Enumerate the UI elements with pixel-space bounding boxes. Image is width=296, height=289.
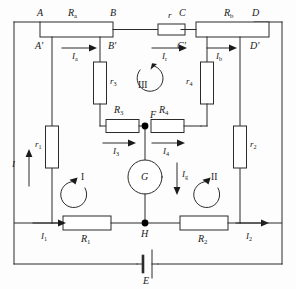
resistor-Rb-body <box>196 22 269 37</box>
battery-label: E <box>143 276 149 286</box>
resistor-label-r4: r4 <box>186 77 193 87</box>
resistor-Ra-body <box>40 22 113 37</box>
current-arrow-Ia <box>62 45 97 52</box>
node-label-A-prime: A' <box>35 41 43 51</box>
resistor-r2-subscript: 2 <box>254 144 257 150</box>
current-label-Ia: Ia <box>72 52 78 62</box>
node-label-C: C <box>179 8 186 18</box>
resistor-R1-subscript: 1 <box>87 238 90 245</box>
current-arrow-I <box>26 149 33 186</box>
resistor-label-Ra: Ra <box>68 8 77 19</box>
resistor-r-symbol: r <box>168 10 172 20</box>
resistor-Ra-subscript: a <box>74 12 77 19</box>
resistor-Rb-subscript: b <box>230 12 233 19</box>
circuit-diagram: A A' B B' C C' D D' F H Ra Rb r R3 R4 R1… <box>0 0 296 289</box>
resistor-R3-subscript: 3 <box>120 109 123 116</box>
resistor-label-r3: r3 <box>110 77 117 87</box>
current-I4-subscript: 4 <box>166 151 169 157</box>
node-label-D: D <box>252 8 259 18</box>
node-label-A: A <box>37 8 43 18</box>
galvanometer-label: G <box>141 172 148 182</box>
resistor-r3-subscript: 3 <box>114 81 117 87</box>
current-arrow-Ig <box>174 163 181 195</box>
resistor-label-R2: R2 <box>198 234 208 245</box>
current-I2-subscript: 2 <box>249 236 252 242</box>
resistor-R2-subscript: 2 <box>204 238 207 245</box>
current-Ia-subscript: a <box>75 56 78 62</box>
current-arrow-I3 <box>103 140 136 147</box>
current-arrow-I4 <box>152 140 185 147</box>
node-dot-F <box>142 123 149 130</box>
resistor-r4-body <box>201 62 214 104</box>
current-label-I: I <box>12 160 15 169</box>
node-label-H: H <box>141 229 148 239</box>
resistor-label-R3: R3 <box>114 105 124 116</box>
current-Ir-subscript: r <box>165 56 167 62</box>
current-I1-subscript: 1 <box>44 236 47 242</box>
resistor-R2-body <box>180 216 228 230</box>
node-label-F: F <box>150 110 156 120</box>
resistor-label-r2: r2 <box>250 140 257 150</box>
node-dot-H <box>142 220 149 227</box>
resistor-R4-body <box>151 120 184 133</box>
resistor-label-R1: R1 <box>81 234 91 245</box>
current-label-Ig: Ig <box>182 170 188 180</box>
resistor-r4-subscript: 4 <box>190 81 193 87</box>
current-I-symbol: I <box>12 159 15 169</box>
node-label-C-prime: C' <box>177 41 186 51</box>
current-arrow-Ib <box>207 45 237 52</box>
loop-label-II: II <box>211 173 217 183</box>
resistor-r1-subscript: 1 <box>39 144 42 150</box>
current-Ig-subscript: g <box>185 174 188 180</box>
loop-label-III: III <box>138 81 148 91</box>
current-Ib-subscript: b <box>219 56 222 62</box>
node-label-D-prime: D' <box>250 41 259 51</box>
current-label-I4: I4 <box>163 147 169 157</box>
current-label-Ib: Ib <box>216 52 222 62</box>
resistor-R3-body <box>106 120 139 133</box>
resistor-label-Rb: Rb <box>224 8 234 19</box>
resistor-R1-body <box>63 216 111 230</box>
node-label-B-prime: B' <box>108 41 116 51</box>
resistor-label-r: r <box>168 11 172 20</box>
resistor-label-r1: r1 <box>35 140 42 150</box>
current-label-Ir: Ir <box>162 52 167 62</box>
resistor-label-R4: R4 <box>159 105 169 116</box>
resistor-r3-body <box>94 62 107 104</box>
current-label-I3: I3 <box>113 147 119 157</box>
current-I3-subscript: 3 <box>116 151 119 157</box>
resistor-R4-subscript: 4 <box>165 109 168 116</box>
current-label-I2: I2 <box>246 232 252 242</box>
resistor-r1-body <box>46 126 59 168</box>
current-label-I1: I1 <box>41 232 47 242</box>
node-label-B: B <box>110 8 116 18</box>
loop-label-I: I <box>81 173 84 183</box>
resistor-r2-body <box>234 126 247 168</box>
